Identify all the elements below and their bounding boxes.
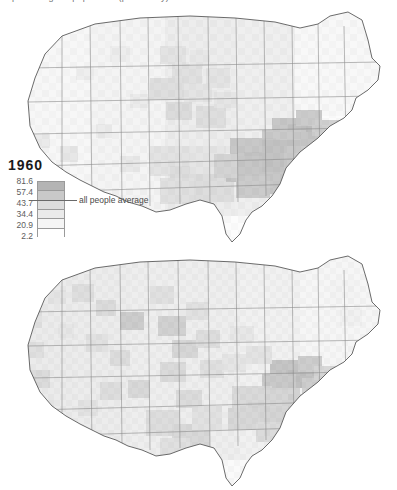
figure-title-clipped: a percentage of population (per county)	[4, 0, 169, 2]
us-county-map-2000-svg	[0, 250, 397, 490]
legend-year-label-1960: 1960	[8, 157, 43, 173]
legend-1960: 1960 81.6 57.4 43.7 34.4 20.9 2.2	[0, 157, 43, 242]
map-panel-2000: 2000 56.9 29.0 20.4 14.2 10.0 0.0	[0, 250, 397, 490]
legend-swatch	[38, 219, 64, 228]
legend-values-1960: 81.6 57.4 43.7 34.4 20.9 2.2	[0, 176, 33, 242]
legend-value: 2.2	[0, 231, 33, 242]
average-label-1960: all people average	[79, 195, 148, 205]
legend-value: 20.9	[0, 220, 33, 231]
average-leader-line	[29, 200, 77, 201]
legend-swatch	[38, 229, 64, 238]
legend-swatch	[38, 201, 64, 210]
choropleth-map-2000	[0, 250, 397, 490]
legend-value: 34.4	[0, 209, 33, 220]
legend-swatch	[38, 210, 64, 219]
figure-root: a percentage of population (per county)	[0, 0, 397, 490]
legend-value: 57.4	[0, 187, 33, 198]
legend-swatch	[38, 182, 64, 191]
map-panel-1960: 1960 81.6 57.4 43.7 34.4 20.9 2.2	[0, 6, 397, 246]
map-fill-layer-2000	[0, 250, 397, 490]
legend-swatches-1960	[37, 181, 65, 237]
legend-value: 81.6	[0, 176, 33, 187]
